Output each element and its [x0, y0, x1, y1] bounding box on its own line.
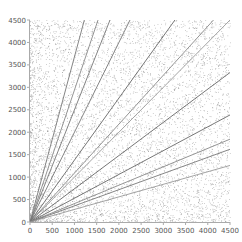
radial-line [30, 20, 230, 222]
y-tick-label: 2000 [8, 129, 26, 137]
y-tick-label: 1500 [8, 151, 26, 159]
y-tick-label: 0 [22, 219, 26, 227]
radial-line [30, 20, 98, 222]
y-tick-label: 4500 [8, 17, 26, 25]
x-tick-label: 4500 [221, 227, 239, 235]
scatter-chart: 050010001500200025003000350040004500 050… [0, 0, 242, 242]
x-tick-label: 3000 [154, 227, 172, 235]
y-tick-label: 3500 [8, 61, 26, 69]
radial-line [30, 115, 230, 222]
y-tick-label: 2500 [8, 106, 26, 114]
x-tick-label: 1500 [88, 227, 106, 235]
radial-line [30, 165, 230, 222]
scatter-points [30, 20, 231, 223]
x-tick-label: 2000 [110, 227, 128, 235]
x-tick-label: 4000 [199, 227, 217, 235]
x-tick-label: 1000 [66, 227, 84, 235]
x-tick-label: 2500 [132, 227, 150, 235]
x-tick-label: 0 [28, 227, 32, 235]
radial-lines [30, 20, 230, 222]
y-tick-label: 1000 [8, 174, 26, 182]
x-axis-ticks: 050010001500200025003000350040004500 [28, 222, 239, 235]
y-axis-ticks: 050010001500200025003000350040004500 [8, 17, 30, 227]
y-tick-label: 4000 [8, 39, 26, 47]
x-tick-label: 3500 [177, 227, 195, 235]
y-tick-label: 500 [13, 196, 26, 204]
x-tick-label: 500 [46, 227, 59, 235]
y-tick-label: 3000 [8, 84, 26, 92]
